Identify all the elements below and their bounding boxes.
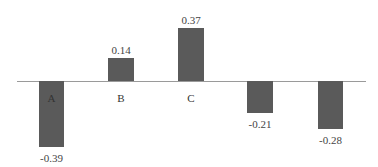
value-label: 0.14 — [96, 44, 146, 56]
value-label: -0.28 — [306, 134, 356, 146]
bar-b — [108, 58, 134, 81]
bar-item-5 — [318, 81, 343, 129]
value-label: -0.39 — [27, 152, 77, 164]
bar-item-4 — [247, 81, 273, 113]
x-axis-line — [17, 81, 366, 82]
value-label: -0.21 — [235, 118, 285, 130]
bar-a — [39, 81, 64, 147]
category-label: A — [37, 92, 67, 104]
category-label: B — [106, 92, 136, 104]
bar-chart: -0.39A0.14B0.37C-0.21-0.28 — [0, 0, 378, 167]
category-label: C — [176, 92, 206, 104]
value-label: 0.37 — [166, 14, 216, 26]
bar-c — [178, 28, 204, 81]
